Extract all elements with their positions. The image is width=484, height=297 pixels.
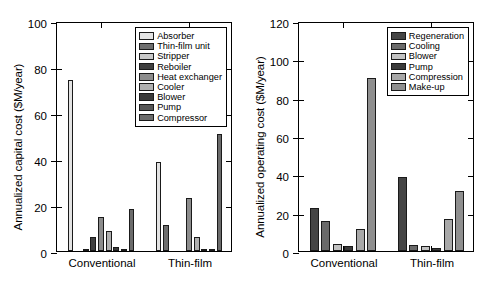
legend-item-pump[interactable]: Pump	[139, 102, 222, 112]
bar-regeneration-thin-film	[398, 177, 407, 251]
y-tick-label: 20	[34, 202, 47, 214]
bar-cooler-conventional	[106, 231, 112, 251]
bar-pump-conventional	[121, 249, 127, 251]
bar-blower-thin-film	[421, 246, 430, 251]
bar-absorber-conventional	[68, 80, 74, 251]
bar-compression-thin-film	[444, 219, 453, 251]
legend-item-regeneration[interactable]: Regeneration	[391, 31, 464, 41]
bar-blower-conventional	[333, 244, 342, 251]
bar-make-up-conventional	[367, 78, 376, 251]
y-tick-label: 120	[270, 18, 289, 30]
y-tick-label: 60	[34, 110, 47, 122]
bar-heat-exchanger-conventional	[98, 217, 104, 252]
y-tick-inner-right	[226, 161, 231, 162]
legend-item-stripper[interactable]: Stripper	[139, 51, 222, 61]
legend-swatch-icon	[139, 63, 154, 71]
legend-label: Blower	[157, 92, 185, 102]
y-tick-inner-left	[299, 61, 304, 62]
y-tick-inner-right	[468, 100, 473, 101]
legend-swatch-icon	[391, 63, 406, 71]
legend-label: Cooler	[157, 82, 184, 92]
legend-label: Make-up	[409, 82, 445, 92]
legend-item-thin-film-unit[interactable]: Thin-film unit	[139, 41, 222, 51]
figure-container: Annualized capital cost ($M/year) 020406…	[0, 0, 484, 297]
y-tick-mark: 120	[293, 23, 299, 24]
legend-label: Cooling	[409, 41, 440, 51]
y-tick-label: 80	[276, 95, 289, 107]
legend-swatch-icon	[139, 32, 154, 40]
panel-operating-cost: Annualized operating cost ($M/year) 0204…	[242, 0, 484, 297]
y-tick-label: 100	[28, 18, 47, 30]
bar-compression-conventional	[356, 229, 365, 251]
legend-label: Absorber	[157, 31, 194, 41]
legend-item-blower[interactable]: Blower	[139, 92, 222, 102]
bar-blower-thin-film	[201, 249, 207, 251]
y-tick-inner-right	[226, 207, 231, 208]
y-axis-title-capital: Annualized capital cost ($M/year)	[12, 22, 26, 272]
legend-item-blower[interactable]: Blower	[391, 51, 464, 61]
bar-cooling-conventional	[321, 221, 330, 251]
legend-swatch-icon	[139, 53, 154, 61]
legend-swatch-icon	[139, 104, 154, 112]
y-tick-label: 0	[283, 248, 289, 260]
x-tick-mark-top	[343, 23, 344, 28]
x-tick-label: Thin-film	[410, 257, 454, 269]
legend-swatch-icon	[391, 32, 406, 40]
legend-swatch-icon	[139, 83, 154, 91]
bar-make-up-thin-film	[455, 191, 464, 251]
x-tick-mark-top	[101, 23, 102, 28]
legend-label: Stripper	[157, 51, 189, 61]
legend-item-compression[interactable]: Compression	[391, 72, 464, 82]
bar-reboiler-conventional	[90, 237, 96, 251]
y-tick-inner-right	[468, 215, 473, 216]
y-tick-label: 0	[41, 248, 47, 260]
legend-label: Blower	[409, 51, 437, 61]
x-tick-label: Conventional	[310, 257, 377, 269]
legend-swatch-icon	[139, 93, 154, 101]
legend-item-cooler[interactable]: Cooler	[139, 82, 222, 92]
legend-label: Pump	[157, 102, 181, 112]
bar-regeneration-conventional	[310, 208, 319, 251]
y-tick-inner-left	[57, 161, 62, 162]
legend-label: Reboiler	[157, 62, 191, 72]
bar-pump-thin-film	[209, 249, 215, 251]
y-tick-inner-left	[299, 138, 304, 139]
y-tick-label: 20	[276, 210, 289, 222]
bar-heat-exchanger-thin-film	[186, 198, 192, 251]
legend-swatch-icon	[391, 53, 406, 61]
legend-item-compressor[interactable]: Compressor	[139, 113, 222, 123]
y-tick-inner-right	[468, 138, 473, 139]
legend-item-heat-exchanger[interactable]: Heat exchanger	[139, 72, 222, 82]
legend-item-cooling[interactable]: Cooling	[391, 41, 464, 51]
bar-absorber-thin-film	[156, 162, 162, 251]
bar-cooler-thin-film	[194, 237, 200, 251]
legend-label: Heat exchanger	[157, 72, 222, 82]
legend-item-pump[interactable]: Pump	[391, 62, 464, 72]
y-tick-inner-right	[468, 176, 473, 177]
legend-label: Thin-film unit	[157, 41, 210, 51]
legend-capital: AbsorberThin-film unitStripperReboilerHe…	[135, 27, 227, 127]
plot-area-operating: 020406080100120ConventionalThin-film Reg…	[298, 22, 474, 252]
x-tick-label: Conventional	[68, 257, 135, 269]
y-tick-label: 80	[34, 64, 47, 76]
bar-pump-conventional	[344, 246, 353, 251]
bar-compressor-thin-film	[217, 134, 223, 251]
y-tick-inner-left	[299, 215, 304, 216]
bar-stripper-conventional	[83, 249, 89, 251]
legend-label: Pump	[409, 62, 433, 72]
legend-item-reboiler[interactable]: Reboiler	[139, 62, 222, 72]
y-tick-mark: 100	[51, 23, 57, 24]
bar-thin-film-unit-thin-film	[163, 225, 169, 251]
legend-swatch-icon	[139, 43, 154, 51]
y-tick-label: 40	[34, 156, 47, 168]
y-tick-inner-left	[57, 115, 62, 116]
legend-operating: RegenerationCoolingBlowerPumpCompression…	[387, 27, 469, 96]
legend-item-make-up[interactable]: Make-up	[391, 82, 464, 92]
legend-swatch-icon	[391, 83, 406, 91]
y-tick-label: 40	[276, 171, 289, 183]
x-tick-label: Thin-film	[168, 257, 212, 269]
bar-compressor-conventional	[129, 209, 135, 251]
legend-label: Regeneration	[409, 31, 464, 41]
legend-item-absorber[interactable]: Absorber	[139, 31, 222, 41]
y-axis-title-operating: Annualized operating cost ($M/year)	[254, 22, 268, 272]
